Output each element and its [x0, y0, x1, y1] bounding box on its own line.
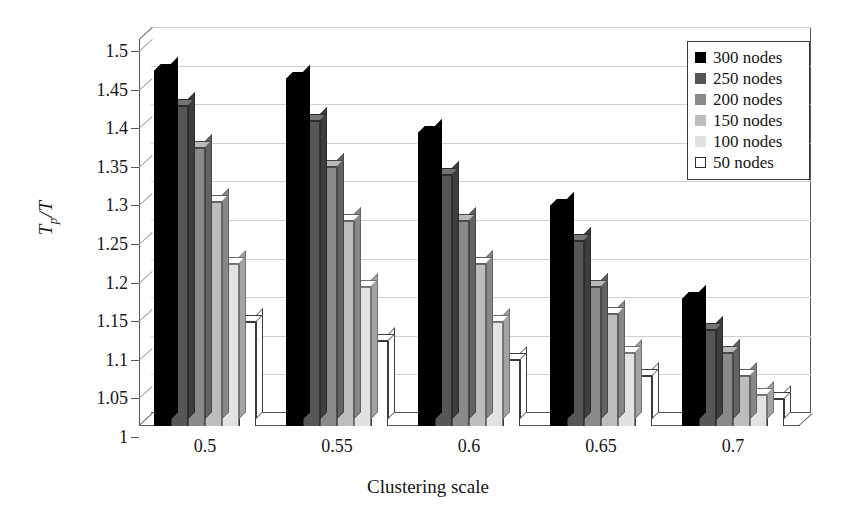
bar-side-face: [699, 285, 706, 419]
y-tick-label: 1.2: [62, 274, 128, 292]
legend-item-label: 150 nodes: [713, 112, 782, 129]
x-tick-label: 0.7: [688, 436, 778, 457]
legend-item-label: 200 nodes: [713, 91, 782, 108]
y-tick-label: 1.15: [62, 312, 128, 330]
bar-side-face: [618, 300, 625, 419]
y-tick-mark: [131, 205, 139, 206]
bar-front-face: [154, 71, 171, 426]
legend-swatch-icon: [695, 94, 706, 105]
x-tick-label: 0.55: [292, 436, 382, 457]
legend-item: 200 nodes: [695, 89, 802, 110]
legend-swatch-icon: [695, 73, 706, 84]
legend-item: 100 nodes: [695, 131, 802, 152]
axis-depth-edge-bottom-right: [799, 413, 813, 426]
bar-side-face: [303, 65, 310, 419]
bar-side-face: [567, 192, 574, 419]
bar-side-face: [601, 273, 608, 419]
legend-item: 150 nodes: [695, 110, 802, 131]
y-tick-label: 1.1: [62, 351, 128, 369]
x-tick-label: 0.5: [160, 436, 250, 457]
bar-side-face: [354, 207, 361, 419]
bar-side-face: [452, 161, 459, 419]
legend-swatch-icon: [695, 115, 706, 126]
legend-swatch-icon: [695, 157, 706, 168]
bar-front-face: [418, 133, 435, 426]
bar-front-face: [286, 79, 303, 426]
bar-side-face: [435, 119, 442, 419]
x-tick-label: 0.6: [424, 436, 514, 457]
legend-item-label: 50 nodes: [713, 154, 774, 171]
bar: [418, 133, 435, 426]
bar-side-face: [222, 188, 229, 419]
y-tick-label: 1: [62, 428, 128, 446]
y-axis-title-subscript: p: [45, 217, 60, 224]
legend-item: 300 nodes: [695, 47, 802, 68]
y-tick-label: 1.45: [62, 81, 128, 99]
y-tick-label: 1.5: [62, 42, 128, 60]
bar: [286, 79, 303, 426]
x-tick-label: 0.65: [556, 436, 646, 457]
bar-side-face: [784, 385, 791, 419]
bar-side-face: [256, 308, 263, 419]
bar-side-face: [171, 57, 178, 419]
legend-swatch-icon: [695, 136, 706, 147]
legend-item: 50 nodes: [695, 152, 802, 173]
bar-side-face: [188, 92, 195, 419]
bar-side-face: [320, 107, 327, 419]
legend: 300 nodes250 nodes200 nodes150 nodes100 …: [687, 41, 810, 180]
legend-item: 250 nodes: [695, 68, 802, 89]
y-tick-label: 1.25: [62, 235, 128, 253]
bar-front-face: [682, 299, 699, 426]
bar-side-face: [239, 250, 246, 419]
bar: [682, 299, 699, 426]
bar: [550, 206, 567, 426]
bar-side-face: [205, 134, 212, 419]
bar-side-face: [584, 227, 591, 419]
y-tick-mark: [131, 437, 139, 438]
y-tick-label: 1.05: [62, 389, 128, 407]
bar-side-face: [337, 153, 344, 419]
x-axis-title: Clustering scale: [0, 476, 856, 498]
y-tick-label: 1.35: [62, 158, 128, 176]
legend-swatch-icon: [695, 52, 706, 63]
y-axis-title-main: T: [35, 224, 56, 235]
legend-item-label: 250 nodes: [713, 70, 782, 87]
legend-item-label: 100 nodes: [713, 133, 782, 150]
bar-chart-figure: Tp/T 11.051.11.151.21.251.31.351.41.451.…: [0, 0, 856, 531]
legend-item-label: 300 nodes: [713, 49, 782, 66]
y-tick-mark: [131, 398, 139, 399]
y-axis-title-tail: /T: [35, 200, 56, 217]
bar-side-face: [371, 273, 378, 419]
bar-side-face: [388, 327, 395, 419]
bar-front-face: [550, 206, 567, 426]
bar-side-face: [503, 308, 510, 419]
bar-side-face: [716, 316, 723, 420]
y-tick-label: 1.3: [62, 196, 128, 214]
y-axis-title: Tp/T: [35, 188, 61, 248]
bar-side-face: [486, 250, 493, 419]
y-tick-mark: [131, 128, 139, 129]
bar-side-face: [469, 207, 476, 419]
y-tick-label: 1.4: [62, 119, 128, 137]
y-tick-mark: [131, 321, 139, 322]
bar: [154, 71, 171, 426]
